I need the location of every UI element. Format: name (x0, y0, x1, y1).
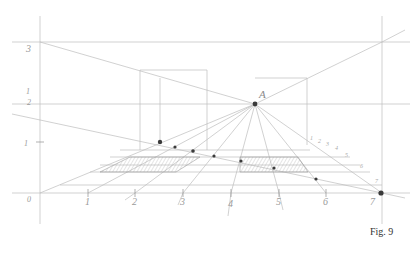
svg-text:4: 4 (335, 145, 338, 151)
diagonal-ticks: 1 2 3 4 5 6 7 (310, 135, 379, 184)
figure-caption: Fig. 9 (370, 227, 393, 237)
vanishing-point-label: A (259, 89, 266, 100)
ground-label-6: 6 (323, 197, 328, 207)
scale-label-half-top: 1 (26, 88, 30, 96)
hatched-regions (100, 157, 308, 172)
ground-label-1: 1 (85, 197, 90, 207)
measure-points (158, 102, 384, 196)
svg-text:2: 2 (318, 138, 321, 144)
scale-label-0: 0 (27, 196, 31, 204)
point-7 (378, 190, 383, 195)
svg-text:6: 6 (360, 163, 363, 169)
scale-label-1: 1 (24, 140, 28, 148)
hatched-floor-right (240, 157, 308, 172)
svg-text:7: 7 (375, 178, 379, 184)
ground-label-3: 3 (180, 197, 185, 207)
ground-label-5: 5 (276, 197, 281, 207)
ground-label-7: 7 (370, 197, 375, 207)
ground-label-4: 4 (228, 199, 233, 209)
svg-text:1: 1 (310, 135, 313, 141)
svg-text:5: 5 (345, 152, 348, 158)
hatched-floor-left (100, 157, 200, 172)
ground-label-2: 2 (132, 197, 137, 207)
perspective-figure: 1 2 3 4 5 6 7 3 1 2 1 0 1 2 3 4 5 6 7 A … (0, 0, 417, 255)
scale-label-half-bottom: 2 (27, 99, 31, 107)
vanishing-point-a (253, 102, 258, 107)
scale-label-3: 3 (26, 44, 31, 54)
svg-text:3: 3 (325, 141, 329, 147)
construction-lines (12, 16, 410, 224)
perspective-drawing: 1 2 3 4 5 6 7 (0, 0, 417, 255)
